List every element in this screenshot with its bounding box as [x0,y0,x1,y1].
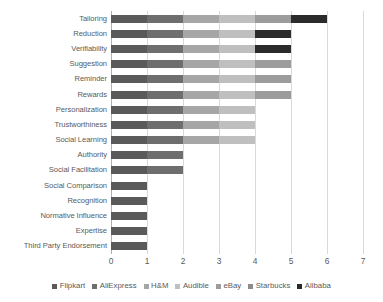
y-axis-label: Suggestion [1,60,107,68]
stacked-bar [111,136,255,144]
stacked-bar [111,197,147,205]
bar-segment-h-m [183,15,219,23]
bar-segment-aliexpress [147,60,183,68]
bar-segment-flipkart [111,15,147,23]
gridline-7 [363,11,364,254]
bar-row [111,224,363,239]
x-axis-tick: 5 [289,256,294,266]
bar-segment-audible [219,45,255,53]
legend-item-alibaba[interactable]: Alibaba [297,282,331,290]
bar-row [111,102,363,117]
bar-segment-aliexpress [147,91,183,99]
bar-segment-flipkart [111,121,147,129]
bar-segment-aliexpress [147,45,183,53]
plot-area [111,11,363,254]
stacked-bar [111,151,183,159]
bar-segment-h-m [183,91,219,99]
legend-item-starbucks[interactable]: Starbucks [248,282,290,290]
bar-segment-ebay [255,91,291,99]
bar-segment-ebay [255,15,291,23]
stacked-bar [111,212,147,220]
bar-segment-flipkart [111,227,147,235]
bar-rows [111,11,363,254]
bar-segment-flipkart [111,151,147,159]
stacked-bar [111,182,147,190]
y-axis-label: Social Learning [1,136,107,144]
bar-segment-aliexpress [147,106,183,114]
bar-segment-aliexpress [147,121,183,129]
x-axis-tick: 3 [217,256,222,266]
legend-item-flipkart[interactable]: Flipkart [52,282,85,290]
bar-segment-h-m [183,45,219,53]
bar-segment-flipkart [111,106,147,114]
stacked-bar [111,227,147,235]
legend-label: AliExpress [100,282,137,290]
bar-segment-h-m [183,136,219,144]
bar-segment-flipkart [111,182,147,190]
bar-row [111,208,363,223]
bar-segment-aliexpress [147,151,183,159]
bar-segment-flipkart [111,60,147,68]
stacked-bar [111,121,255,129]
y-axis-label: Personalization [1,106,107,114]
legend-label: Audible [183,282,209,290]
y-axis-label: Social Comparison [1,182,107,190]
stacked-bar-chart: TailoringReductionVerifiabilitySuggestio… [0,0,383,302]
x-axis-tick: 0 [109,256,114,266]
bar-segment-h-m [183,106,219,114]
bar-segment-ebay [255,60,291,68]
bar-row [111,87,363,102]
bar-segment-flipkart [111,197,147,205]
stacked-bar [111,30,291,38]
legend-swatch-icon [144,284,149,289]
stacked-bar [111,242,147,250]
stacked-bar [111,91,291,99]
x-axis-tick: 4 [253,256,258,266]
legend-label: Flipkart [60,282,86,290]
x-axis-tick: 2 [181,256,186,266]
bar-segment-audible [219,60,255,68]
bar-segment-flipkart [111,242,147,250]
stacked-bar [111,60,291,68]
legend-item-h-m[interactable]: H&M [144,282,169,290]
stacked-bar [111,75,291,83]
bar-segment-aliexpress [147,166,183,174]
bar-segment-flipkart [111,91,147,99]
legend-swatch-icon [216,284,221,289]
bar-segment-aliexpress [147,75,183,83]
legend-swatch-icon [52,284,57,289]
bar-row [111,148,363,163]
bar-segment-audible [219,75,255,83]
bar-row [111,41,363,56]
bar-segment-audible [219,121,255,129]
y-axis-label: Reminder [1,75,107,83]
y-axis-label: Recognition [1,197,107,205]
bar-row [111,57,363,72]
bar-row [111,193,363,208]
legend-swatch-icon [248,284,253,289]
bar-row [111,26,363,41]
legend-label: Starbucks [256,282,291,290]
legend-label: Alibaba [305,282,331,290]
legend-item-ebay[interactable]: eBay [216,282,241,290]
bar-row [111,163,363,178]
y-axis-label: Authority [1,151,107,159]
bar-segment-h-m [183,121,219,129]
bar-row [111,11,363,26]
stacked-bar [111,45,291,53]
stacked-bar [111,15,327,23]
bar-segment-aliexpress [147,30,183,38]
x-axis-tick: 7 [361,256,366,266]
bar-segment-audible [219,15,255,23]
y-axis-labels: TailoringReductionVerifiabilitySuggestio… [0,11,107,254]
bar-row [111,178,363,193]
y-axis-label: Expertise [1,227,107,235]
bar-segment-flipkart [111,212,147,220]
stacked-bar [111,106,255,114]
bar-segment-audible [219,91,255,99]
legend-item-audible[interactable]: Audible [175,282,209,290]
bar-segment-alibaba [255,30,291,38]
y-axis-label: Third Party Endorsement [1,242,107,250]
bar-segment-flipkart [111,136,147,144]
legend-item-aliexpress[interactable]: AliExpress [92,282,136,290]
